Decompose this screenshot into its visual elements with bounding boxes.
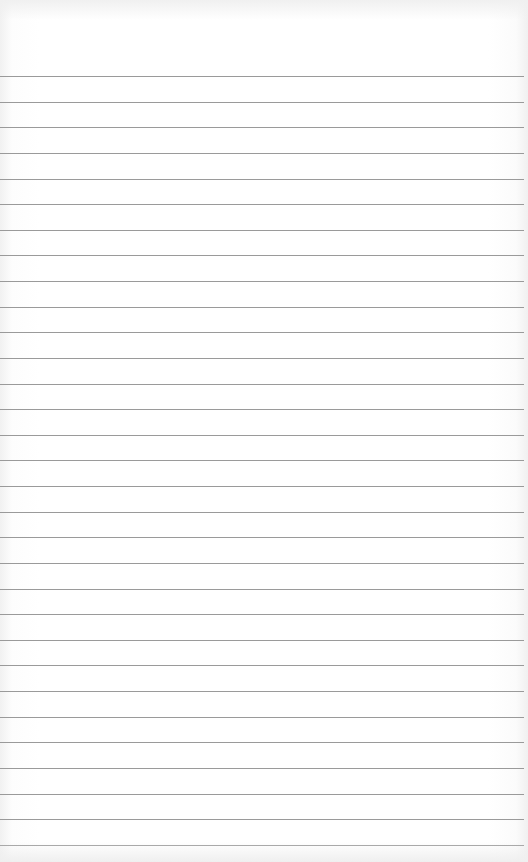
ruled-line bbox=[0, 358, 524, 359]
ruled-line bbox=[0, 76, 524, 77]
ruled-line bbox=[0, 281, 524, 282]
ruled-line bbox=[0, 614, 524, 615]
ruled-line bbox=[0, 409, 524, 410]
lined-paper bbox=[0, 0, 528, 862]
ruled-line bbox=[0, 307, 524, 308]
ruled-line bbox=[0, 255, 524, 256]
ruled-line bbox=[0, 537, 524, 538]
ruled-line bbox=[0, 717, 524, 718]
ruled-line bbox=[0, 794, 524, 795]
ruled-line bbox=[0, 179, 524, 180]
ruled-line bbox=[0, 486, 524, 487]
ruled-line bbox=[0, 589, 524, 590]
ruled-line bbox=[0, 460, 524, 461]
ruled-line bbox=[0, 153, 524, 154]
ruled-line bbox=[0, 204, 524, 205]
ruled-line bbox=[0, 384, 524, 385]
ruled-line bbox=[0, 127, 524, 128]
ruled-line bbox=[0, 563, 524, 564]
ruled-line bbox=[0, 742, 524, 743]
ruled-line bbox=[0, 665, 524, 666]
ruled-line bbox=[0, 845, 524, 846]
ruled-line bbox=[0, 435, 524, 436]
ruled-line bbox=[0, 102, 524, 103]
ruled-line bbox=[0, 768, 524, 769]
ruled-line bbox=[0, 691, 524, 692]
ruled-line bbox=[0, 640, 524, 641]
ruled-line bbox=[0, 230, 524, 231]
ruled-line bbox=[0, 512, 524, 513]
ruled-line bbox=[0, 332, 524, 333]
ruled-line bbox=[0, 819, 524, 820]
